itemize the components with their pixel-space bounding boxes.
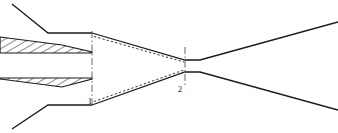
station-2-label: 2: [178, 84, 183, 94]
lower-wedge-hatched-body: [0, 78, 92, 87]
diagram-canvas: 1 2: [0, 0, 338, 133]
hatched-wedge-group: [0, 37, 92, 87]
lower-cowl-diagonal-line: [12, 105, 92, 129]
upper-wedge-hatched-body: [0, 37, 92, 53]
lower-wall-dotted-streamline: [94, 70, 184, 102]
station-line-group: [92, 31, 185, 107]
upper-wall-solid-contour: [92, 22, 338, 60]
external-cowl-lines: [12, 4, 92, 129]
nozzle-cross-section-svg: 1 2: [0, 0, 338, 133]
lower-wall-solid-contour: [92, 72, 338, 110]
nozzle-contour-group: [92, 22, 338, 110]
station-1-label: 1: [88, 96, 93, 106]
upper-cowl-diagonal-line: [12, 4, 92, 33]
upper-wall-dotted-streamline: [94, 37, 184, 63]
station-label-group: 1 2: [88, 84, 183, 106]
